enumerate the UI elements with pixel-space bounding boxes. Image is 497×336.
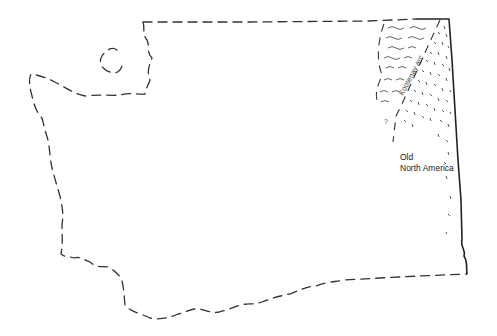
kootenay-arc-label: Kootenay arc: [397, 53, 426, 96]
east-boundary: [417, 19, 467, 274]
island-outline: [100, 48, 122, 72]
uncertain-mark: ?: [384, 118, 388, 125]
washington-map: Kootenay arc ? Old North America: [0, 0, 497, 336]
old-label: Old: [400, 152, 414, 162]
north-america-label: North America: [400, 163, 454, 173]
